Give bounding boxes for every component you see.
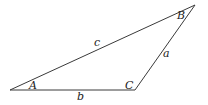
side-label-b: b — [77, 90, 84, 103]
side-label-a: a — [163, 47, 170, 60]
triangle-diagram: A B C a b c — [0, 0, 208, 105]
vertex-label-c: C — [125, 79, 134, 92]
vertex-label-b: B — [176, 9, 185, 22]
side-label-c: c — [94, 36, 100, 49]
vertex-label-a: A — [28, 79, 37, 92]
